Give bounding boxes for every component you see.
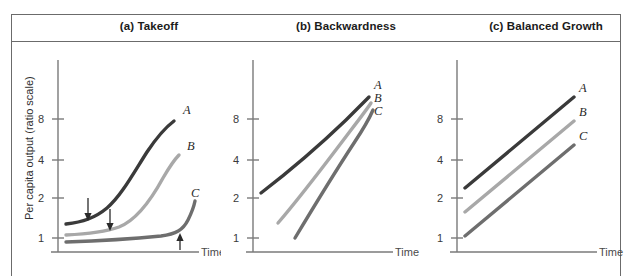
y-tick-label-4: 4 [38, 154, 44, 166]
series-label-c: C [579, 129, 588, 143]
y-tick-label-2: 2 [437, 192, 443, 204]
panel-title-band: (a) Takeoff (b) Backwardness (c) Balance… [11, 14, 621, 42]
y-axis-label: Per capita output (ratio scale) [23, 76, 35, 220]
series-label-b: B [374, 91, 382, 105]
y-tick-label-8: 8 [437, 113, 443, 125]
series-curve-b [278, 103, 371, 223]
series-curve-b [465, 121, 574, 212]
takeoff-arrow-c [176, 233, 183, 250]
y-tick-label-1: 1 [233, 232, 239, 244]
series-curve-a [465, 97, 574, 188]
series-label-a: A [182, 103, 191, 117]
panel-title-takeoff: (a) Takeoff [59, 20, 239, 32]
x-axis-label: Time [599, 246, 623, 258]
panel-title-backwardness: (b) Backwardness [251, 20, 441, 32]
y-tick-label-8: 8 [38, 113, 44, 125]
y-tick-label-8: 8 [233, 113, 239, 125]
y-tick-label-1: 1 [38, 232, 44, 244]
balanced-growth-plot: 8 4 2 1 A B C Time [431, 42, 635, 269]
series-label-a: A [578, 81, 587, 95]
y-tick-label-2: 2 [38, 192, 44, 204]
chart-panel-takeoff: Per capita output (ratio scale) 8 4 2 1 [11, 42, 221, 269]
series-curve-b [66, 155, 179, 235]
y-tick-label-2: 2 [233, 192, 239, 204]
y-tick-label-1: 1 [437, 232, 443, 244]
series-label-c: C [191, 186, 200, 200]
y-tick-label-4: 4 [233, 154, 239, 166]
panel-title-balanced-growth: (c) Balanced Growth [451, 20, 635, 32]
chart-panel-balanced-growth: 8 4 2 1 A B C Time [431, 42, 635, 269]
series-label-a: A [373, 78, 382, 92]
y-tick-label-4: 4 [437, 154, 443, 166]
backwardness-plot: 8 4 2 1 A B C Time [221, 42, 431, 269]
takeoff-plot: Per capita output (ratio scale) 8 4 2 1 [11, 42, 221, 269]
series-label-b: B [579, 105, 587, 119]
series-label-b: B [187, 139, 195, 153]
x-axis-label: Time [201, 246, 221, 258]
chart-panel-backwardness: 8 4 2 1 A B C Time [221, 42, 431, 269]
series-label-c: C [374, 104, 383, 118]
series-curve-c [465, 145, 574, 236]
x-axis-label: Time [395, 246, 419, 258]
series-curve-a [66, 121, 174, 224]
